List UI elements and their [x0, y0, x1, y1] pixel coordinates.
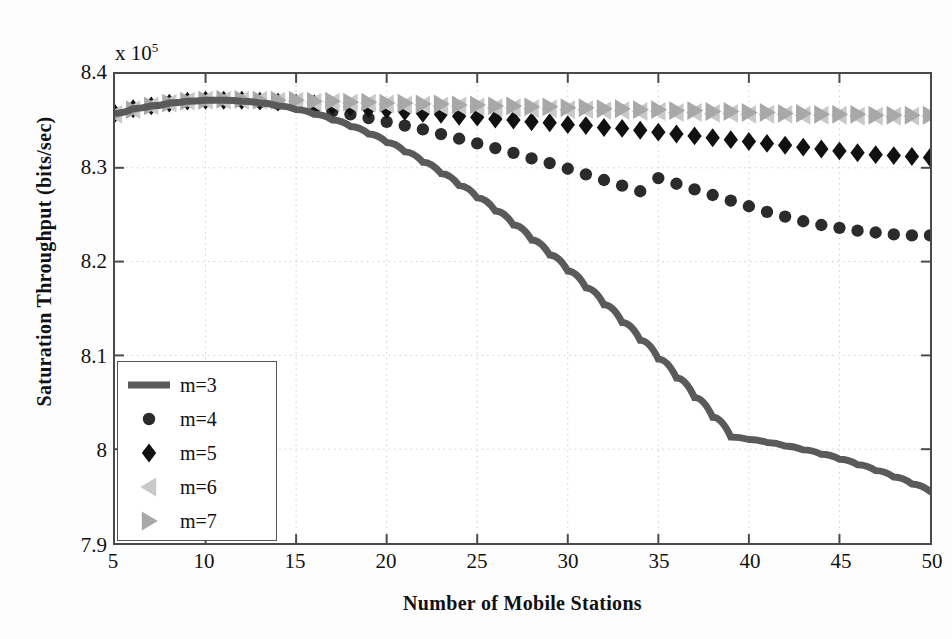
data-marker-diamond	[669, 125, 683, 144]
data-marker-diamond	[633, 121, 647, 140]
data-marker-triangle-left	[140, 478, 156, 497]
x-axis-tick-label: 25	[450, 549, 504, 574]
data-marker-diamond	[905, 147, 919, 166]
data-marker-diamond	[850, 143, 864, 162]
legend-item-m-7: m=7	[118, 504, 276, 538]
data-marker-circle	[869, 226, 881, 238]
data-marker-circle	[507, 147, 519, 159]
legend-label: m=6	[180, 476, 217, 499]
data-marker-circle	[670, 178, 682, 190]
data-marker-diamond	[597, 118, 611, 137]
data-marker-diamond	[706, 128, 720, 147]
legend-item-m-4: m=4	[118, 402, 276, 436]
data-marker-circle	[761, 206, 773, 218]
legend-item-m-3: m=3	[118, 368, 276, 402]
legend-item-m-5: m=5	[118, 436, 276, 470]
data-marker-circle	[743, 200, 755, 212]
data-marker-circle	[471, 137, 483, 149]
data-marker-diamond	[923, 148, 930, 167]
data-marker-circle	[435, 128, 447, 140]
x-axis-tick-label: 10	[177, 549, 231, 574]
data-marker-circle	[399, 119, 411, 131]
data-marker-diamond	[724, 130, 738, 149]
data-marker-circle	[580, 168, 592, 180]
data-marker-circle	[543, 157, 555, 169]
y-axis-exponent-label: x 105	[115, 40, 158, 66]
x-axis-tick-label: 15	[268, 549, 322, 574]
data-marker-circle	[616, 179, 628, 191]
data-marker-circle	[851, 224, 863, 236]
data-marker-circle	[779, 210, 791, 222]
data-marker-diamond	[142, 444, 156, 463]
legend-item-m-6: m=6	[118, 470, 276, 504]
data-marker-circle	[797, 215, 809, 227]
legend-marker-triangle-left	[118, 474, 180, 500]
data-marker-circle	[833, 222, 845, 234]
data-marker-circle	[688, 183, 700, 195]
data-marker-circle	[598, 174, 610, 186]
data-marker-circle	[924, 229, 930, 241]
data-marker-circle	[815, 219, 827, 231]
data-marker-circle	[489, 142, 501, 154]
data-marker-circle	[634, 185, 646, 197]
data-marker-circle	[652, 172, 664, 184]
data-marker-diamond	[778, 136, 792, 155]
data-marker-diamond	[579, 116, 593, 135]
data-marker-circle	[725, 194, 737, 206]
data-marker-circle	[906, 229, 918, 241]
data-marker-diamond	[687, 126, 701, 145]
data-marker-diamond	[651, 123, 665, 142]
legend-label: m=5	[180, 442, 217, 465]
legend-marker-triangle-right	[118, 508, 180, 534]
data-marker-diamond	[887, 146, 901, 165]
legend-marker-circle	[118, 406, 180, 432]
y-axis-tick-label: 8	[47, 438, 107, 463]
y-axis-tick-label: 8.1	[47, 343, 107, 368]
legend-label: m=3	[180, 374, 217, 397]
legend-symbol-canvas	[126, 474, 172, 500]
data-marker-circle	[706, 189, 718, 201]
y-axis-tick-label: 8.4	[47, 60, 107, 85]
data-marker-diamond	[760, 134, 774, 153]
x-axis-tick-label: 30	[541, 549, 595, 574]
legend: m=3m=4m=5m=6m=7	[117, 361, 277, 541]
legend-label: m=4	[180, 408, 217, 431]
y-axis-tick-label: 8.3	[47, 154, 107, 179]
data-marker-diamond	[869, 145, 883, 164]
x-axis-tick-label: 5	[86, 549, 140, 574]
chart-figure: Saturation Throughput (bits/sec) x 105 7…	[0, 0, 952, 639]
data-marker-diamond	[832, 141, 846, 160]
y-axis-exponent-base: x 10	[115, 41, 152, 65]
data-marker-diamond	[796, 138, 810, 157]
x-axis-tick-label: 50	[905, 549, 952, 574]
data-marker-circle	[453, 133, 465, 145]
data-marker-diamond	[814, 140, 828, 159]
data-marker-diamond	[742, 132, 756, 151]
legend-marker-line	[118, 372, 180, 398]
x-axis-title: Number of Mobile Stations	[113, 592, 932, 615]
legend-symbol-canvas	[126, 440, 172, 466]
data-marker-circle	[417, 123, 429, 135]
x-axis-tick-label: 35	[632, 549, 686, 574]
data-marker-triangle-right	[923, 106, 930, 125]
legend-marker-diamond	[118, 440, 180, 466]
x-axis-tick-label: 45	[814, 549, 868, 574]
data-marker-circle	[562, 163, 574, 175]
data-marker-circle	[525, 152, 537, 164]
data-marker-circle	[143, 413, 155, 425]
data-marker-circle	[888, 228, 900, 240]
x-axis-tick-label: 20	[359, 549, 413, 574]
legend-label: m=7	[180, 510, 217, 533]
x-axis-tick-label: 40	[723, 549, 777, 574]
data-marker-diamond	[615, 119, 629, 138]
legend-symbol-canvas	[126, 406, 172, 432]
legend-symbol-canvas	[126, 508, 172, 534]
data-marker-diamond	[561, 115, 575, 134]
y-axis-tick-label: 8.2	[47, 249, 107, 274]
y-axis-exponent-power: 5	[152, 40, 159, 55]
x-axis-tick-labels: 5101520253035404550	[113, 549, 932, 583]
legend-symbol-canvas	[126, 372, 172, 398]
data-marker-triangle-right	[142, 512, 158, 531]
y-axis-tick-labels: 7.988.18.28.38.4	[43, 72, 107, 545]
